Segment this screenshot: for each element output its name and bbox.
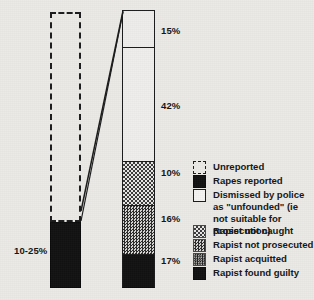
legend-item-rapist-found-guilty: Rapist found guilty xyxy=(193,267,314,281)
legend-swatch-rapes-reported-icon xyxy=(193,175,206,188)
segment-rapist-not-prosecuted xyxy=(122,206,155,255)
value-label-rapist-found-guilty: 17% xyxy=(161,255,180,266)
legend-swatch-unreported-icon xyxy=(193,161,206,174)
legend-label-rapist-not-prosecuted: Rapist not prosecuted xyxy=(213,239,313,251)
stacked-bar-chart: 10-25% 15% 42% 10% 16% 17% Unreported Ra… xyxy=(0,0,314,300)
segment-rapist-not-caught-upper xyxy=(122,48,155,162)
legend: Unreported Rapes reported Dismissed by p… xyxy=(193,161,314,281)
legend-swatch-rapist-found-guilty-icon xyxy=(193,267,206,280)
segment-unreported xyxy=(50,12,81,222)
segment-rapes-reported xyxy=(50,222,81,288)
value-label-rapes-reported: 10-25% xyxy=(14,245,47,256)
legend-label-rapist-found-guilty: Rapist found guilty xyxy=(213,267,299,279)
legend-swatch-rapist-acquitted-icon xyxy=(193,253,206,266)
legend-label-rapist-not-caught: Rapist not caught xyxy=(213,225,293,237)
legend-item-unreported: Unreported xyxy=(193,161,314,175)
segment-dismissed-unfounded xyxy=(122,10,155,48)
bar-reported-breakdown xyxy=(122,10,155,288)
segment-rapist-not-caught xyxy=(122,162,155,206)
legend-item-rapes-reported: Rapes reported xyxy=(193,175,314,189)
value-label-rapist-not-caught-upper: 42% xyxy=(161,100,180,111)
legend-label-unreported: Unreported xyxy=(213,161,264,173)
legend-label-rapist-acquitted: Rapist acquitted xyxy=(213,253,287,265)
value-label-dismissed-unfounded: 15% xyxy=(161,25,180,36)
legend-item-rapist-not-prosecuted: Rapist not prosecuted xyxy=(193,239,314,253)
legend-item-rapist-acquitted: Rapist acquitted xyxy=(193,253,314,267)
bar-all-rapes xyxy=(50,12,81,288)
legend-swatch-rapist-not-caught-icon xyxy=(193,225,206,238)
legend-swatch-dismissed-unfounded-icon xyxy=(193,189,206,202)
value-label-rapist-not-prosecuted: 16% xyxy=(161,213,180,224)
legend-item-dismissed-unfounded: Dismissed by police as "unfounded" (ie n… xyxy=(193,189,314,225)
legend-label-rapes-reported: Rapes reported xyxy=(213,175,283,187)
value-label-rapist-not-caught: 10% xyxy=(161,167,180,178)
legend-swatch-rapist-not-prosecuted-icon xyxy=(193,239,206,252)
segment-rapist-found-guilty xyxy=(122,255,155,288)
